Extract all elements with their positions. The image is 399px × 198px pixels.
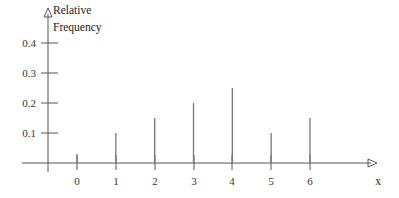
x-tick-label-2: 2 xyxy=(152,175,158,187)
y-tick-label-3: 0.3 xyxy=(22,67,36,79)
y-tick-label-2: 0.2 xyxy=(22,97,36,109)
relative-frequency-chart: 0.4 0.3 0.2 0.1 0 1 2 3 4 5 6 Relative F… xyxy=(0,0,399,198)
chart-canvas: 0.4 0.3 0.2 0.1 0 1 2 3 4 5 6 Relative F… xyxy=(0,0,399,198)
x-tick-label-3: 3 xyxy=(191,175,197,187)
data-stem-group xyxy=(77,88,310,163)
y-tick-label-4: 0.4 xyxy=(22,37,36,49)
x-tick-label-1: 1 xyxy=(113,175,119,187)
x-tick-label-0: 0 xyxy=(74,175,80,187)
y-axis-title-line1: Relative xyxy=(53,4,91,16)
y-tick-label-1: 0.1 xyxy=(22,127,36,139)
x-tick-label-6: 6 xyxy=(307,175,313,187)
x-tick-label-5: 5 xyxy=(268,175,274,187)
x-tick-label-4: 4 xyxy=(229,175,235,187)
y-axis-title-line2: Frequency xyxy=(53,21,102,34)
x-axis-title: x xyxy=(375,175,381,187)
